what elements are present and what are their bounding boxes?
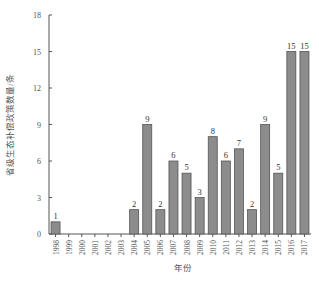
bar <box>208 137 217 234</box>
x-tick-label: 2005 <box>143 240 152 255</box>
bar <box>182 173 191 234</box>
bar <box>274 173 283 234</box>
bar-value-label: 15 <box>300 41 309 51</box>
bar <box>156 210 165 234</box>
x-tick-label: 2017 <box>300 240 309 255</box>
x-tick-label: 2007 <box>169 240 178 255</box>
bar <box>51 222 60 234</box>
y-tick-label: 15 <box>33 48 41 57</box>
x-tick-label: 2001 <box>91 240 100 255</box>
x-tick-label: 2000 <box>78 240 87 255</box>
x-tick-label: 2016 <box>287 240 296 255</box>
bar-value-label: 7 <box>237 138 241 148</box>
x-tick-label: 2014 <box>261 240 270 255</box>
bar-value-label: 15 <box>287 41 296 51</box>
y-tick-label: 3 <box>37 194 41 203</box>
bar <box>169 161 178 234</box>
x-tick-label: 1999 <box>65 240 74 255</box>
bar <box>261 125 270 235</box>
x-tick-label: 2008 <box>183 240 192 255</box>
bar-value-label: 8 <box>211 126 215 136</box>
bar-value-label: 3 <box>198 187 202 197</box>
bar <box>130 210 139 234</box>
bar-value-label: 5 <box>184 162 188 172</box>
y-tick-label: 0 <box>37 230 41 239</box>
bar-value-label: 5 <box>276 162 280 172</box>
y-tick-label: 18 <box>33 11 41 20</box>
x-tick-label: 2010 <box>209 240 218 255</box>
bar <box>248 210 257 234</box>
bar <box>143 125 152 235</box>
y-axis-title: 省级生态补偿政策数量/条 <box>5 74 15 175</box>
bar <box>195 198 204 235</box>
x-tick-label: 2009 <box>196 240 205 255</box>
x-axis: 1998199920002001200220032004200520062007… <box>49 234 311 255</box>
x-tick-label: 2004 <box>130 240 139 255</box>
bar-value-label: 9 <box>263 114 267 124</box>
bar-value-label: 1 <box>53 211 57 221</box>
bar-chart: 0369121518 19981999200020012002200320042… <box>0 0 319 287</box>
bars: 12926538672951515 <box>51 41 309 235</box>
bar <box>300 52 309 235</box>
x-tick-label: 2015 <box>274 240 283 255</box>
x-tick-label: 2002 <box>104 240 113 255</box>
bar-value-label: 2 <box>132 199 136 209</box>
x-tick-label: 2006 <box>156 240 165 255</box>
x-tick-label: 2012 <box>235 240 244 255</box>
y-tick-label: 6 <box>37 157 41 166</box>
bar-value-label: 2 <box>250 199 254 209</box>
bar-value-label: 6 <box>224 150 228 160</box>
x-tick-label: 2003 <box>117 240 126 255</box>
bar <box>287 52 296 235</box>
bar-value-label: 9 <box>145 114 149 124</box>
bar-value-label: 2 <box>158 199 162 209</box>
bar <box>234 149 243 234</box>
y-axis: 0369121518 <box>33 11 52 239</box>
bar-value-label: 6 <box>171 150 175 160</box>
x-tick-label: 2011 <box>222 240 231 255</box>
x-tick-label: 2013 <box>248 240 257 255</box>
x-axis-title: 年份 <box>174 263 192 273</box>
y-tick-label: 9 <box>37 121 41 130</box>
bar <box>221 161 230 234</box>
x-tick-label: 1998 <box>52 240 61 255</box>
y-tick-label: 12 <box>33 84 41 93</box>
